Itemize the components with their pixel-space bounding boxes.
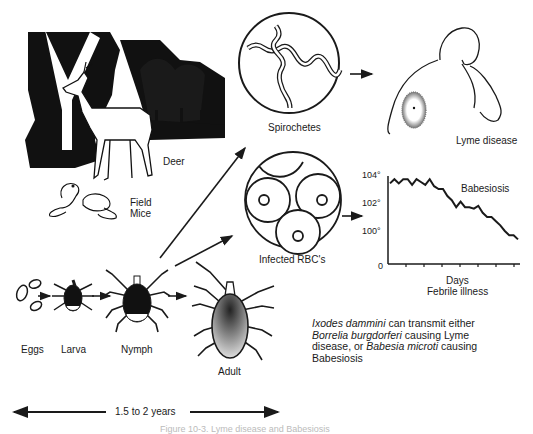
field-mice-label-line2: Mice	[130, 208, 151, 219]
larva-illustration	[52, 280, 94, 311]
species-borrelia: Borrelia burgdorferi	[312, 329, 402, 341]
field-mice-label-line1: Field	[130, 197, 152, 208]
lifecycle-diagram	[0, 0, 533, 434]
adult-label: Adult	[218, 366, 241, 377]
infected-rbc-label: Infected RBC's	[259, 254, 325, 265]
description-text-part: causing Lyme	[402, 329, 469, 341]
spirochetes-label: Spirochetes	[268, 122, 321, 133]
description-text-part: disease, or	[312, 340, 366, 352]
chart-xlabel: Days	[446, 275, 469, 286]
arrow-to-rbc	[175, 236, 232, 266]
y-tick-100: 100°	[362, 226, 381, 236]
chart-xlabel-secondary: Febrile illness	[427, 286, 488, 297]
adult-tick-illustration	[192, 262, 274, 360]
description-text-part: can transmit either	[386, 317, 475, 329]
lyme-disease-label: Lyme disease	[456, 135, 517, 146]
deer-label: Deer	[163, 156, 185, 167]
duration-label: 1.5 to 2 years	[115, 406, 176, 417]
species-ixodes: Ixodes dammini	[312, 317, 386, 329]
lyme-patient-illustration	[388, 28, 501, 134]
field-mice-illustration	[49, 184, 116, 219]
infected-rbc-illustration	[245, 152, 341, 254]
y-tick-102: 102°	[362, 198, 381, 208]
description-text-part: causing	[438, 340, 477, 352]
nymph-illustration	[104, 270, 170, 332]
spirochetes-illustration	[239, 13, 340, 113]
eggs-label: Eggs	[21, 344, 44, 355]
description-text-part: Babesiosis	[312, 352, 363, 364]
forest-illustration	[25, 30, 225, 168]
nymph-label: Nymph	[121, 344, 153, 355]
description-text: Ixodes dammini can transmit either Borre…	[312, 318, 532, 364]
larva-label: Larva	[61, 344, 86, 355]
figure-caption: Figure 10-3. Lyme disease and Babesiosis	[160, 424, 330, 434]
species-babesia: Babesia microti	[366, 340, 438, 352]
y-tick-0: 0	[378, 261, 383, 271]
chart-title: Babesiosis	[461, 183, 509, 194]
y-tick-104: 104°	[362, 170, 381, 180]
